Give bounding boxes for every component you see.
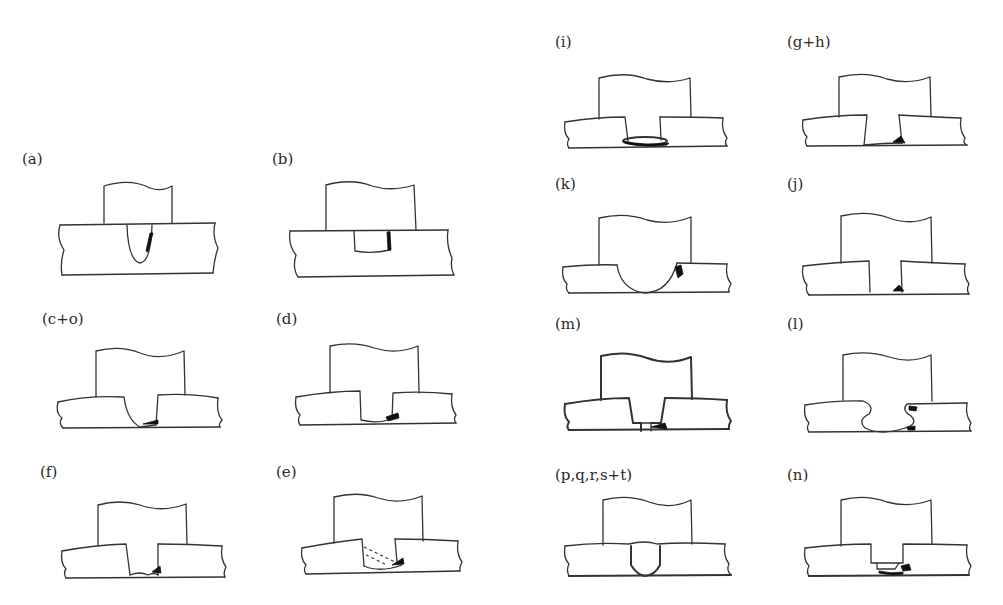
punch-diagram-n: [775, 460, 1003, 595]
panel-g-h: (g+h): [775, 25, 1003, 160]
punch-diagram-c-o: [0, 305, 260, 440]
punch-diagram-b: [262, 150, 482, 290]
punch-diagram-d: [262, 305, 482, 440]
punch-diagram-a: [0, 150, 260, 290]
panel-a: (a): [0, 150, 260, 290]
punch-diagram-m: [545, 310, 775, 445]
panel-b: (b): [262, 150, 482, 290]
panel-d: (d): [262, 305, 482, 440]
punch-diagram-k: [545, 170, 775, 305]
panel-l: (l): [775, 310, 1003, 445]
panel-i: (i): [545, 25, 775, 160]
panel-n: (n): [775, 460, 1003, 595]
punch-diagram-e: [262, 455, 482, 590]
punch-diagram-i: [545, 25, 775, 160]
panel-j: (j): [775, 170, 1003, 305]
punch-diagram-f: [0, 455, 260, 590]
punch-diagram-l: [775, 310, 1003, 445]
punch-diagram-j: [775, 170, 1003, 305]
panel-e: (e): [262, 455, 482, 590]
panel-c-o: (c+o): [0, 305, 260, 440]
punch-diagram-p-q-r-s-t: [545, 460, 775, 595]
panel-p-q-r-s-t: (p,q,r,s+t): [545, 460, 775, 595]
panel-f: (f): [0, 455, 260, 590]
punch-diagram-g-h: [775, 25, 1003, 160]
panel-k: (k): [545, 170, 775, 305]
panel-m: (m): [545, 310, 775, 445]
